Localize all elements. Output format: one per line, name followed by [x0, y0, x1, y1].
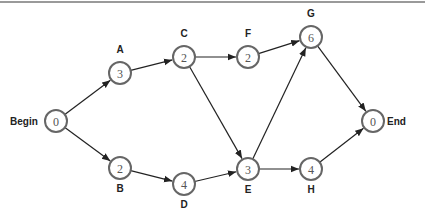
node-label: B: [116, 183, 123, 194]
edge-d-to-e: [195, 172, 237, 182]
node-duration: 2: [181, 51, 187, 65]
edge-f-to-g: [258, 41, 299, 54]
node-label: E: [245, 184, 252, 195]
node-c: 2C: [173, 28, 195, 68]
node-a: 3A: [109, 44, 131, 84]
edge-g-to-end: [318, 46, 366, 111]
node-end: 0End: [362, 110, 406, 132]
node-duration: 2: [117, 162, 123, 176]
node-e: 3E: [237, 158, 259, 195]
node-duration: 0: [370, 115, 376, 129]
node-h: 4H: [300, 158, 322, 195]
node-label: End: [387, 116, 406, 127]
node-duration: 3: [245, 163, 251, 177]
edge-b-to-d: [131, 171, 173, 181]
node-duration: 3: [117, 67, 123, 81]
node-label: A: [116, 44, 123, 55]
node-d: 4D: [173, 173, 195, 210]
node-label: D: [180, 199, 187, 210]
network-diagram: 0Begin3A2B2C4D2F3E6G4H0End: [0, 0, 425, 223]
node-label: F: [245, 28, 251, 39]
node-f: 2F: [237, 28, 259, 68]
node-label: Begin: [10, 116, 38, 127]
edge-a-to-c: [131, 60, 173, 70]
node-b: 2B: [109, 157, 131, 194]
edge-e-to-g: [253, 48, 306, 159]
edge-h-to-end: [320, 128, 364, 162]
node-label: C: [180, 28, 187, 39]
node-duration: 2: [245, 51, 251, 65]
edge-begin-to-b: [65, 128, 110, 161]
node-duration: 4: [181, 178, 187, 192]
node-label: H: [307, 184, 314, 195]
node-begin: 0Begin: [10, 110, 67, 132]
node-g: 6G: [300, 8, 322, 48]
node-label: G: [307, 8, 315, 19]
node-duration: 4: [308, 163, 314, 177]
edge-begin-to-a: [65, 80, 111, 114]
node-duration: 6: [308, 31, 314, 45]
edge-c-to-e: [189, 67, 242, 159]
node-duration: 0: [53, 115, 59, 129]
